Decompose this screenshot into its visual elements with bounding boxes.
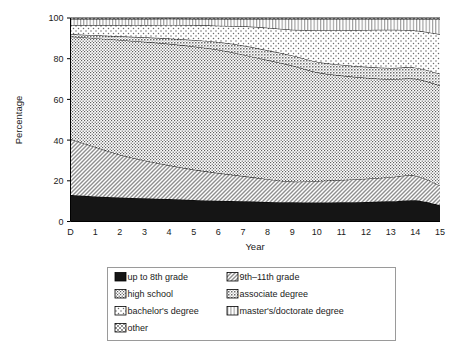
- chart-legend: up to 8th grade9th–11th gradehigh school…: [108, 268, 396, 341]
- legend-item-master-s-doctorate-degree[interactable]: master's/doctorate degree: [227, 306, 344, 316]
- legend-label: other: [128, 323, 149, 333]
- x-tick-label-8: 8: [265, 227, 270, 237]
- x-tick-label-14: 14: [410, 227, 420, 237]
- y-tick-label-5: 100: [48, 13, 63, 23]
- x-tick-label-0: D: [67, 227, 74, 237]
- legend-swatch-icon: [115, 273, 126, 282]
- x-tick-label-12: 12: [361, 227, 371, 237]
- legend-swatch-icon: [115, 290, 126, 299]
- y-tick-label-4: 80: [53, 54, 63, 64]
- y-tick-label-1: 20: [53, 176, 63, 186]
- legend-swatch-icon: [227, 307, 238, 316]
- x-tick-label-11: 11: [337, 227, 346, 237]
- stacked-area-chart-figure: 020406080100 D123456789101112131415 Perc…: [0, 0, 470, 362]
- y-axis-title: Percentage: [13, 96, 24, 145]
- x-tick-label-15: 15: [435, 227, 445, 237]
- x-tick-label-5: 5: [191, 227, 196, 237]
- x-tick-label-6: 6: [216, 227, 221, 237]
- legend-label: up to 8th grade: [128, 272, 189, 282]
- legend-item-associate-degree[interactable]: associate degree: [227, 289, 308, 299]
- legend-label: associate degree: [240, 289, 309, 299]
- legend-item-other[interactable]: other: [115, 323, 148, 333]
- legend-swatch-icon: [227, 273, 238, 282]
- x-tick-label-13: 13: [386, 227, 396, 237]
- x-tick-label-9: 9: [290, 227, 295, 237]
- legend-swatch-icon: [227, 290, 238, 299]
- y-tick-label-2: 40: [53, 136, 63, 146]
- x-tick-label-2: 2: [117, 227, 122, 237]
- y-tick-label-3: 60: [53, 95, 63, 105]
- legend-swatch-icon: [115, 307, 126, 316]
- x-tick-label-7: 7: [240, 227, 245, 237]
- chart-plot-bands: [71, 18, 441, 222]
- y-tick-label-0: 0: [58, 217, 63, 227]
- legend-item-high-school[interactable]: high school: [115, 289, 173, 299]
- x-tick-label-3: 3: [142, 227, 147, 237]
- x-tick-label-10: 10: [312, 227, 322, 237]
- legend-label: master's/doctorate degree: [240, 306, 344, 316]
- legend-label: high school: [128, 289, 174, 299]
- legend-item-9th-11th-grade[interactable]: 9th–11th grade: [227, 272, 299, 282]
- x-tick-label-1: 1: [93, 227, 98, 237]
- legend-label: bachelor's degree: [128, 306, 199, 316]
- legend-swatch-icon: [115, 324, 126, 333]
- x-tick-label-4: 4: [167, 227, 172, 237]
- legend-item-up-to-8th-grade[interactable]: up to 8th grade: [115, 272, 188, 282]
- x-axis-title: Year: [245, 241, 264, 252]
- legend-label: 9th–11th grade: [240, 272, 300, 282]
- legend-item-bachelor-s-degree[interactable]: bachelor's degree: [115, 306, 199, 316]
